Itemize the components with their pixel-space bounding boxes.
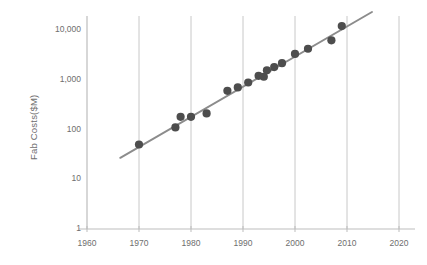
- fab-costs-chart: Fab Costs($M) 1101001,00010,000 19601970…: [0, 0, 427, 265]
- data-point: [244, 78, 252, 86]
- data-point: [234, 83, 242, 91]
- y-tick-label-100: 100: [39, 124, 81, 134]
- x-tick-label-1990: 1990: [223, 238, 263, 248]
- data-point: [304, 45, 312, 53]
- y-tick-label-1000: 1,000: [39, 74, 81, 84]
- x-tick-label-2000: 2000: [275, 238, 315, 248]
- y-tick-label-10000: 10,000: [39, 24, 81, 34]
- data-point: [177, 113, 185, 121]
- x-tick-label-1960: 1960: [67, 238, 107, 248]
- data-point: [171, 123, 179, 131]
- x-tick-label-1980: 1980: [171, 238, 211, 248]
- data-point: [291, 50, 299, 58]
- data-point: [278, 59, 286, 67]
- data-points-group: [135, 22, 346, 149]
- axis-lines-group: [79, 16, 415, 229]
- y-axis-title: Fab Costs($M): [28, 95, 39, 160]
- gridlines-group: [139, 16, 399, 229]
- data-point: [270, 63, 278, 71]
- data-point: [338, 22, 346, 30]
- data-point: [327, 36, 335, 44]
- data-point: [135, 140, 143, 148]
- data-point: [223, 87, 231, 95]
- y-tick-label-10: 10: [39, 173, 81, 183]
- x-tick-label-2020: 2020: [379, 238, 419, 248]
- data-point: [203, 109, 211, 117]
- data-point: [187, 113, 195, 121]
- data-point: [263, 66, 271, 74]
- x-tick-label-1970: 1970: [119, 238, 159, 248]
- x-tick-label-2010: 2010: [327, 238, 367, 248]
- y-tick-label-1: 1: [39, 223, 81, 233]
